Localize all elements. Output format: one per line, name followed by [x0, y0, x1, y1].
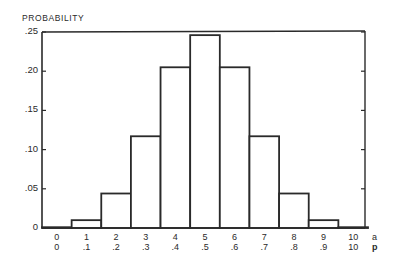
- y-tick-label: 0: [8, 221, 38, 232]
- x-axis-row-key: a: [372, 232, 377, 242]
- top-frame-line: [42, 31, 365, 32]
- histogram-bar: [279, 194, 309, 228]
- histogram-bar: [190, 35, 220, 228]
- x-tick-label-p: .6: [225, 242, 245, 252]
- x-tick-label-a: 4: [165, 232, 185, 242]
- x-tick-label-a: 5: [195, 232, 215, 242]
- x-tick-label-p: .8: [284, 242, 304, 252]
- x-tick-label-a: 2: [106, 232, 126, 242]
- histogram-bar: [161, 67, 191, 228]
- x-tick-label-a: 1: [76, 232, 96, 242]
- histogram-bar: [131, 136, 161, 228]
- y-tick-label: .25: [8, 25, 38, 36]
- y-tick-label: .10: [8, 143, 38, 154]
- histogram-bar: [249, 136, 279, 228]
- x-tick-label-p: 0: [47, 242, 67, 252]
- x-tick-label-p: .2: [106, 242, 126, 252]
- histogram-bar: [309, 220, 339, 228]
- x-tick-label-p: .9: [314, 242, 334, 252]
- x-tick-label-a: 3: [136, 232, 156, 242]
- x-tick-label-a: 8: [284, 232, 304, 242]
- x-tick-label-a: 0: [47, 232, 67, 242]
- x-tick-label-a: 6: [225, 232, 245, 242]
- x-axis-row-key: p: [372, 242, 378, 252]
- x-tick-label-a: 9: [314, 232, 334, 242]
- x-tick-label-p: .3: [136, 242, 156, 252]
- plot-area: [0, 0, 397, 261]
- probability-histogram: PROBABILITY 0.05.10.15.20.25012345678910…: [0, 0, 397, 261]
- x-tick-label-a: 10: [343, 232, 363, 242]
- histogram-bar: [220, 67, 250, 228]
- x-tick-label-p: .4: [165, 242, 185, 252]
- x-tick-label-p: .5: [195, 242, 215, 252]
- x-tick-label-p: 10: [343, 242, 363, 252]
- y-tick-label: .05: [8, 182, 38, 193]
- x-tick-label-a: 7: [254, 232, 274, 242]
- y-tick-label: .20: [8, 64, 38, 75]
- x-tick-label-p: .7: [254, 242, 274, 252]
- histogram-bar: [101, 194, 131, 228]
- x-tick-label-p: .1: [76, 242, 96, 252]
- histogram-bar: [72, 220, 102, 228]
- y-tick-label: .15: [8, 103, 38, 114]
